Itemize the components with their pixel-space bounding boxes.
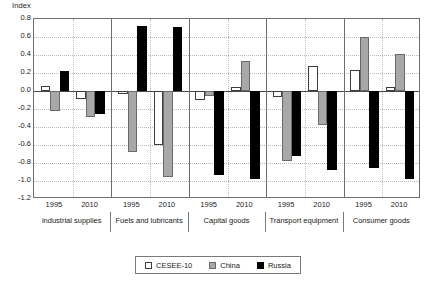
bar: [350, 70, 360, 91]
bar: [241, 61, 251, 91]
x-tick-year-label: 2010: [313, 200, 330, 209]
gridline: [34, 181, 419, 182]
bar: [273, 91, 283, 97]
gridline: [34, 127, 419, 128]
vertical-gridline: [150, 19, 151, 197]
bar: [163, 91, 173, 177]
x-axis-category-labels: industrial suppliesFuels and lubricantsC…: [33, 216, 420, 232]
x-tick-year-label: 2010: [391, 200, 408, 209]
plot-area: [33, 18, 420, 198]
x-category-label: Consumer goods: [353, 216, 410, 225]
vertical-gridline: [305, 19, 306, 197]
bar: [231, 87, 241, 92]
x-tick-year-label: 1995: [200, 200, 217, 209]
bar: [369, 91, 379, 168]
y-axis-tick-labels: 0.80.60.40.20.0-0.2-0.4-0.6-0.8-1.0-1.2: [0, 18, 31, 198]
x-tick-year-label: 1995: [46, 200, 63, 209]
x-category-label: Fuels and lubricants: [116, 216, 183, 225]
legend-swatch-icon: [145, 262, 152, 269]
bar: [173, 27, 183, 91]
x-tick-year-label: 1995: [355, 200, 372, 209]
y-tick-label: -1.0: [3, 176, 31, 184]
bar: [118, 91, 128, 94]
bar: [360, 37, 370, 91]
bar: [195, 91, 205, 100]
x-tick-year-label: 2010: [159, 200, 176, 209]
y-tick-label: 0.4: [3, 50, 31, 58]
bar: [128, 91, 138, 152]
y-tick-label: 0.2: [3, 68, 31, 76]
x-category-label: industrial supplies: [42, 216, 102, 225]
x-tick-year-label: 2010: [81, 200, 98, 209]
legend-label: CESEE-10: [156, 261, 192, 270]
bar: [137, 26, 147, 91]
bar: [292, 91, 302, 156]
bar: [250, 91, 260, 179]
legend-swatch-icon: [257, 262, 264, 269]
chart-legend: CESEE-10ChinaRussia: [135, 256, 301, 274]
vertical-gridline: [73, 19, 74, 197]
y-tick-label: -0.6: [3, 140, 31, 148]
bar: [41, 86, 51, 91]
y-tick-label: -0.2: [3, 104, 31, 112]
x-tick-year-label: 1995: [123, 200, 140, 209]
x-category-label: Transport equipment: [269, 216, 338, 225]
bar: [308, 66, 318, 91]
y-tick-label: -1.2: [3, 194, 31, 202]
vertical-gridline: [228, 19, 229, 197]
bar: [405, 91, 415, 179]
bar: [318, 91, 328, 125]
group-separator: [344, 19, 345, 197]
legend-swatch-icon: [209, 262, 216, 269]
bar: [282, 91, 292, 161]
y-tick-label: 0.0: [3, 86, 31, 94]
legend-label: China: [220, 261, 240, 270]
legend-item-china[interactable]: China: [209, 261, 240, 270]
bar: [205, 91, 215, 96]
x-tick-year-label: 2010: [236, 200, 253, 209]
bar: [86, 91, 96, 117]
bar: [154, 91, 164, 145]
x-axis-year-labels: 1995201019952010199520101995201019952010: [33, 200, 420, 214]
bar: [395, 54, 405, 91]
bar: [50, 91, 60, 111]
bar: [214, 91, 224, 175]
bar: [95, 91, 105, 114]
vertical-gridline: [382, 19, 383, 197]
group-separator: [111, 19, 112, 197]
gridline: [34, 145, 419, 146]
x-tick-year-label: 1995: [278, 200, 295, 209]
bar: [327, 91, 337, 170]
y-tick-label: 0.6: [3, 32, 31, 40]
y-tick-label: 0.8: [3, 14, 31, 22]
legend-item-cesee[interactable]: CESEE-10: [145, 261, 192, 270]
group-separator: [266, 19, 267, 197]
bar: [60, 71, 70, 91]
legend-item-russia[interactable]: Russia: [257, 261, 291, 270]
legend-label: Russia: [268, 261, 291, 270]
x-category-label: Capital goods: [204, 216, 250, 225]
y-axis-title: Index: [12, 1, 31, 10]
bar: [76, 91, 86, 99]
chart-figure: Index 0.80.60.40.20.0-0.2-0.4-0.6-0.8-1.…: [0, 0, 431, 284]
y-tick-label: -0.8: [3, 158, 31, 166]
y-tick-label: -0.4: [3, 122, 31, 130]
gridline: [34, 163, 419, 164]
group-separator: [189, 19, 190, 197]
bar: [386, 87, 396, 92]
